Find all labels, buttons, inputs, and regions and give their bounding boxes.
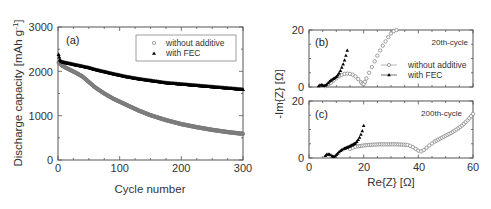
legend-b-with-fec: with FEC — [407, 70, 442, 80]
a-ytick-0: 0 — [47, 154, 53, 166]
series-without-additive-c — [348, 112, 474, 153]
panel-a-label: (a) — [66, 34, 79, 46]
panel-c: (c) 200th-cycle 0 20 0 20 40 60 — [292, 95, 479, 173]
a-xtick-300: 300 — [234, 162, 252, 174]
b-ytick-0: 0 — [298, 81, 304, 93]
bc-xlabel: Re{Z} [Ω] — [367, 176, 415, 188]
a-ylabel: Discharge capacity [mAh g-1] — [11, 19, 24, 166]
bc-ylabel: -Im{Z} [Ω] — [273, 69, 285, 119]
panel-b-legend: without additive with FEC — [381, 60, 467, 80]
b-ytick-20: 20 — [292, 24, 304, 36]
a-ytick-1000: 1000 — [29, 110, 53, 122]
a-xtick-200: 200 — [172, 162, 190, 174]
legend-without-additive: without additive — [165, 38, 225, 48]
a-xtick-100: 100 — [111, 162, 129, 174]
open-circle-marker-icon — [387, 63, 390, 66]
a-ytick-3000: 3000 — [29, 21, 53, 33]
c-xtick-0: 0 — [306, 161, 312, 173]
panel-c-label: (c) — [315, 108, 328, 120]
c-ytick-20: 20 — [292, 95, 304, 107]
series-with-fec-c — [324, 124, 366, 158]
legend-with-fec: with FEC — [165, 48, 200, 58]
panel-c-note: 200th-cycle — [421, 109, 462, 118]
panel-b: (b) 20th-cycle 0 20 without additive wit… — [292, 24, 473, 93]
a-xtick-0: 0 — [55, 162, 61, 174]
panel-b-label: (b) — [315, 36, 328, 48]
panel-a: (a) 0 1000 2000 3000 0 100 200 300 Cycle… — [11, 19, 252, 195]
series-without-additive — [57, 61, 245, 136]
panel-a-legend: without additive with FEC — [136, 35, 236, 61]
panel-b-note: 20th-cycle — [432, 38, 469, 47]
a-xlabel: Cycle number — [115, 183, 186, 195]
a-ytick-2000: 2000 — [29, 66, 53, 78]
c-ytick-0: 0 — [298, 152, 304, 164]
c-xtick-20: 20 — [358, 161, 370, 173]
c-xtick-40: 40 — [413, 161, 425, 173]
filled-triangle-marker-icon — [387, 73, 391, 76]
c-xtick-60: 60 — [467, 161, 479, 173]
legend-b-without-additive: without additive — [407, 60, 467, 70]
figure: (a) 0 1000 2000 3000 0 100 200 300 Cycle… — [0, 0, 491, 209]
